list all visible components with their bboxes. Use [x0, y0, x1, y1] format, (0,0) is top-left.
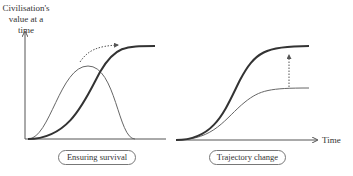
right-panel: [176, 46, 317, 140]
bell-curve: [28, 66, 135, 139]
trajectory-change-caption: Trajectory change: [209, 150, 286, 165]
higher-s-curve: [176, 46, 309, 140]
ensuring-survival-caption: Ensuring survival: [58, 150, 136, 165]
survival-dotted-arrow: [80, 45, 118, 62]
survival-s-curve: [28, 46, 155, 139]
x-axis-label: Time: [322, 135, 341, 145]
diagram-canvas: [0, 0, 353, 176]
left-panel: [25, 32, 166, 139]
lower-s-curve: [176, 88, 309, 140]
